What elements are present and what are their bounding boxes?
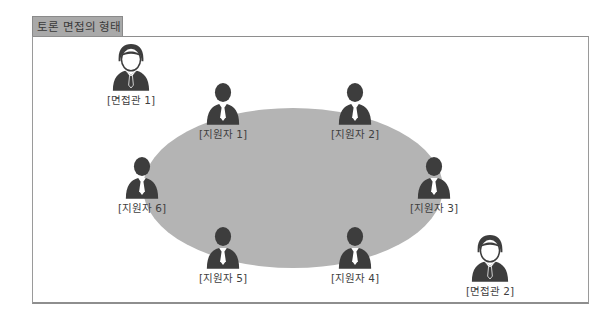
applicant-2: [지원자 2]: [325, 81, 385, 141]
interviewer-2: [면접관 2]: [460, 234, 520, 298]
applicant-4: [지원자 4]: [325, 225, 385, 285]
applicant-icon: [204, 225, 242, 269]
applicant-icon: [204, 81, 242, 125]
interviewer-icon: [110, 43, 152, 91]
applicant-6: [지원자 6]: [112, 155, 172, 215]
applicant-icon: [415, 155, 453, 199]
interviewer-1: [면접관 1]: [101, 43, 161, 107]
applicant-4-label: [지원자 4]: [325, 270, 385, 285]
interviewer-icon: [469, 234, 511, 282]
applicant-icon: [336, 81, 374, 125]
applicant-6-label: [지원자 6]: [112, 200, 172, 215]
applicant-icon: [336, 225, 374, 269]
interviewer-1-label: [면접관 1]: [101, 92, 161, 107]
applicant-2-label: [지원자 2]: [325, 126, 385, 141]
discussion-table: [143, 108, 443, 268]
diagram-title-tab: 토론 면접의 형태: [32, 16, 123, 37]
applicant-5-label: [지원자 5]: [193, 270, 253, 285]
applicant-icon: [123, 155, 161, 199]
applicant-5: [지원자 5]: [193, 225, 253, 285]
applicant-1: [지원자 1]: [193, 81, 253, 141]
applicant-1-label: [지원자 1]: [193, 126, 253, 141]
diagram-title: 토론 면접의 형태: [37, 20, 121, 34]
applicant-3-label: [지원자 3]: [404, 200, 464, 215]
applicant-3: [지원자 3]: [404, 155, 464, 215]
interviewer-2-label: [면접관 2]: [460, 283, 520, 298]
